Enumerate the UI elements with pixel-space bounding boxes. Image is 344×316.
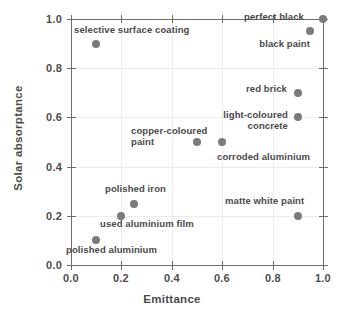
point-label: used aluminium film — [100, 219, 194, 230]
gridline-horizontal — [71, 216, 323, 217]
data-point-marker — [319, 15, 327, 23]
y-tick-right — [319, 117, 328, 118]
y-tick — [67, 167, 76, 168]
x-axis-title: Emittance — [0, 293, 344, 305]
gridline-horizontal — [71, 167, 323, 168]
point-label: selective surface coating — [74, 25, 190, 36]
x-tick-label: 0.4 — [164, 272, 180, 284]
y-tick — [67, 216, 76, 217]
y-tick-label: 1.0 — [46, 13, 62, 25]
x-tick-top — [222, 15, 223, 23]
gridline-vertical — [273, 19, 274, 265]
y-tick-label: 0.4 — [46, 161, 62, 173]
y-tick — [67, 68, 76, 69]
y-tick-label: 0.8 — [46, 62, 62, 74]
point-label: copper-coloured — [131, 126, 207, 137]
gridline-horizontal — [71, 68, 323, 69]
y-axis-title: Solar absorptance — [12, 58, 24, 218]
point-label: light-coloured — [223, 110, 288, 121]
right-spine-line — [323, 19, 324, 266]
data-point-marker — [294, 89, 302, 97]
x-tick — [222, 261, 223, 270]
data-point-marker — [294, 212, 302, 220]
point-label: polished aluminium — [66, 245, 157, 256]
data-point-marker — [218, 138, 226, 146]
x-tick-label: 0.2 — [113, 272, 129, 284]
x-tick — [273, 261, 274, 270]
point-label: polished iron — [105, 184, 166, 195]
y-tick — [67, 117, 76, 118]
x-tick-label: 0.0 — [63, 272, 79, 284]
x-tick-top — [121, 15, 122, 23]
y-tick-label: 0.2 — [46, 210, 62, 222]
data-point-marker — [92, 40, 100, 48]
data-point-marker — [294, 113, 302, 121]
point-label: concrete — [248, 121, 288, 132]
data-point-marker — [306, 27, 314, 35]
data-point-marker — [130, 200, 138, 208]
x-tick — [121, 261, 122, 270]
scatter-chart-figure: 0.00.20.40.60.81.00.00.20.40.60.81.0 per… — [0, 0, 344, 316]
point-label: corroded aluminium — [217, 152, 310, 163]
y-tick-right — [319, 265, 328, 266]
y-tick-label: 0.6 — [46, 111, 62, 123]
y-tick-right — [319, 167, 328, 168]
y-axis-line — [71, 19, 72, 266]
point-label: red brick — [246, 84, 287, 95]
y-tick-right — [319, 216, 328, 217]
data-point-marker — [193, 138, 201, 146]
point-label: black paint — [259, 39, 310, 50]
point-label: matte white paint — [225, 196, 304, 207]
y-tick — [67, 265, 76, 266]
x-axis-line — [71, 265, 324, 266]
x-tick-label: 1.0 — [315, 272, 331, 284]
point-label: paint — [131, 137, 154, 148]
y-tick-right — [319, 68, 328, 69]
x-tick-label: 0.8 — [265, 272, 281, 284]
y-tick — [67, 19, 76, 20]
point-label: perfect black — [244, 12, 304, 23]
x-tick — [172, 261, 173, 270]
x-tick-top — [172, 15, 173, 23]
x-tick-label: 0.6 — [214, 272, 230, 284]
y-tick-label: 0.0 — [46, 259, 62, 271]
